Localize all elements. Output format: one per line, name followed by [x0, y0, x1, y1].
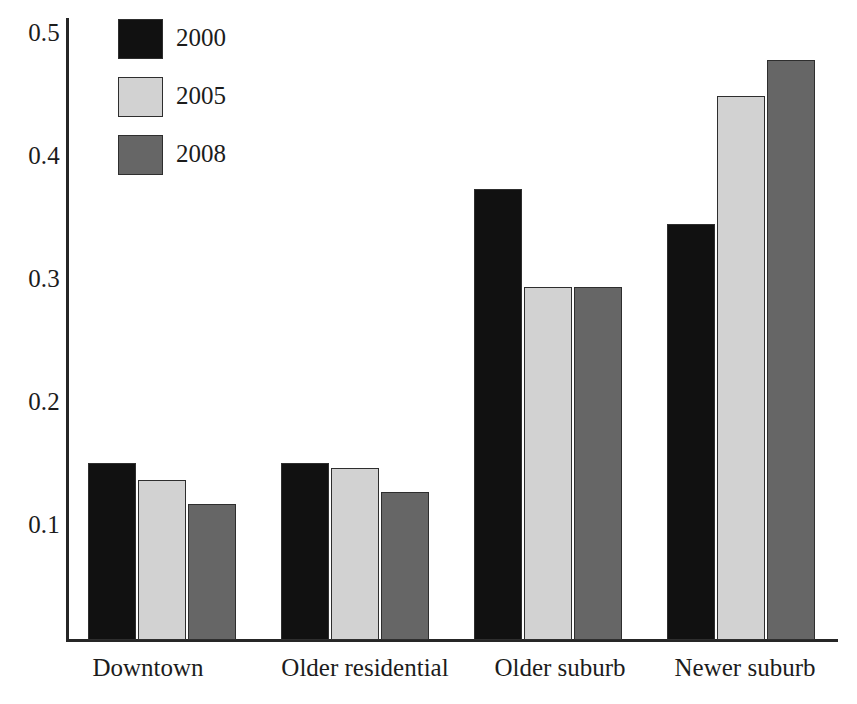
y-axis-tick-labels: 0.5 0.4 0.3 0.2 0.1: [0, 0, 60, 660]
legend-item-2000: 2000: [118, 19, 288, 77]
bar-older-suburb-2005: [524, 287, 572, 640]
legend-item-2005: 2005: [118, 77, 288, 135]
bar-newer-suburb-2005: [717, 96, 765, 640]
bar-downtown-2005: [138, 480, 186, 640]
legend-label: 2005: [176, 81, 226, 111]
y-tick-label: 0.3: [4, 266, 60, 291]
bar-downtown-2008: [188, 504, 236, 640]
legend-item-2008: 2008: [118, 135, 288, 193]
bar-older-residential-2008: [381, 492, 429, 640]
y-tick-label: 0.5: [4, 20, 60, 45]
x-tick-label-older-suburb: Older suburb: [460, 654, 660, 682]
bar-newer-suburb-2000: [667, 224, 715, 640]
x-tick-label-newer-suburb: Newer suburb: [645, 654, 845, 682]
legend-swatch-icon: [118, 19, 163, 59]
bar-older-residential-2000: [281, 463, 329, 640]
y-tick-label: 0.4: [4, 143, 60, 168]
legend: 2000 2005 2008: [118, 19, 288, 193]
x-tick-label-older-residential: Older residential: [250, 654, 480, 682]
bar-downtown-2000: [88, 463, 136, 640]
bar-older-suburb-2000: [474, 189, 522, 640]
legend-swatch-icon: [118, 77, 163, 117]
bar-older-suburb-2008: [574, 287, 622, 640]
bar-older-residential-2005: [331, 468, 379, 640]
legend-label: 2000: [176, 23, 226, 53]
legend-label: 2008: [176, 139, 226, 169]
legend-swatch-icon: [118, 135, 163, 175]
x-tick-label-downtown: Downtown: [58, 654, 238, 682]
y-tick-label: 0.1: [4, 512, 60, 537]
bar-newer-suburb-2008: [767, 60, 815, 640]
bar-chart: 0.5 0.4 0.3 0.2 0.1 Downtown Older resid…: [0, 0, 857, 704]
y-tick-label: 0.2: [4, 389, 60, 414]
